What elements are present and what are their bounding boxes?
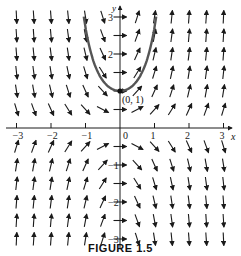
field-arrow [67,196,69,209]
field-arrow [97,106,109,112]
field-arrow [189,11,190,24]
field-arrow [171,48,173,61]
field-arrow [153,214,155,227]
field-arrow [16,177,17,190]
field-arrow [50,177,52,190]
field-arrow [204,103,209,115]
field-arrow [16,196,17,209]
field-arrow [188,214,189,227]
field-arrow [48,104,53,116]
x-tick-label: 3 [220,130,225,141]
y-tick-label: −2 [108,197,119,208]
field-arrow [84,196,87,209]
field-arrow [100,196,106,208]
field-arrow [33,66,35,79]
field-arrow [16,29,17,42]
field-arrow [50,48,52,61]
field-arrow [223,66,224,79]
field-arrow [171,11,172,24]
field-arrow [223,177,224,190]
x-tick-label: −1 [82,130,93,141]
field-arrow [16,11,17,24]
field-arrow [132,143,144,149]
x-tick-label: 2 [185,130,190,141]
field-arrow [153,177,157,189]
field-arrow [98,86,107,96]
field-arrow [206,48,207,61]
field-arrow [50,66,52,79]
field-arrow [205,159,207,172]
field-arrow [223,48,224,61]
field-arrow [97,143,109,149]
field-arrow [222,103,226,115]
x-axis-label: x [230,131,236,142]
field-arrow [204,140,209,152]
field-arrow [222,140,226,152]
field-arrow [66,159,70,171]
field-arrow [50,214,51,227]
field-arrow [50,29,51,42]
field-arrow [206,29,207,42]
field-arrow [150,142,159,152]
field-arrow [206,11,207,24]
field-arrow [33,177,35,190]
field-arrow [81,105,90,115]
field-arrow [33,85,35,98]
initial-point-marker [117,88,122,93]
field-arrow [205,66,207,79]
x-tick-label: −3 [13,130,24,141]
field-arrow [188,196,190,209]
field-arrow [16,214,17,227]
y-tick-label: 2 [108,49,113,60]
field-arrow [170,159,174,171]
field-arrow [135,214,140,226]
field-arrow [32,140,37,152]
field-arrow [135,196,141,208]
field-arrow [67,66,70,79]
field-arrow [171,214,173,227]
field-arrow [66,85,70,97]
field-arrow [170,85,174,97]
field-arrow [205,85,207,98]
field-arrow [16,159,18,172]
field-arrow [101,11,105,23]
field-arrow [186,141,191,153]
field-arrow [133,160,142,170]
field-arrow [32,103,37,115]
field-arrow [135,48,141,60]
field-arrow [153,196,156,209]
field-arrow [67,214,69,227]
field-arrow [188,48,190,61]
field-arrow [223,11,224,24]
field-arrow [152,159,157,171]
x-tick-label: 0 [123,130,128,141]
field-arrow [33,196,34,209]
y-tick-label: −1 [108,160,119,171]
field-arrow [68,11,69,24]
field-arrow [135,29,140,41]
y-tick-label: 3 [108,12,113,23]
field-arrow [67,177,70,190]
field-arrow [153,66,157,78]
field-arrow [99,178,106,189]
field-arrow [223,159,225,172]
field-arrow [83,85,88,97]
field-arrow [15,140,19,152]
field-arrow [101,214,106,226]
field-arrow [50,85,53,98]
field-arrow [188,85,191,98]
field-arrow [170,66,173,79]
field-arrow [168,141,175,152]
field-arrow [135,11,139,23]
field-arrow [206,214,207,227]
field-arrow [171,29,173,42]
field-arrow [150,105,159,115]
field-arrow [100,48,106,60]
field-arrow [188,159,191,172]
field-arrow [134,178,141,189]
field-arrow [81,142,90,152]
field-arrow [153,48,156,61]
field-arrow [33,48,34,61]
field-arrow [65,141,72,152]
field-arrow [65,104,72,115]
